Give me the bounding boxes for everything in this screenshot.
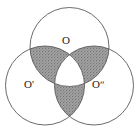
venn-diagram-svg (0, 0, 139, 135)
venn-figure-root: O O' Oʺ (0, 0, 139, 135)
vertex-label-o: O (62, 35, 70, 46)
vertex-label-o-double-prime: Oʺ (92, 79, 104, 90)
vertex-label-o-prime: O' (24, 79, 34, 90)
